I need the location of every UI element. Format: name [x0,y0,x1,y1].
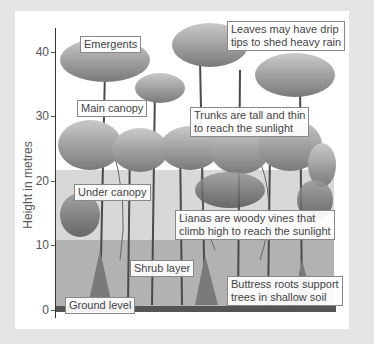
label-main-canopy: Main canopy [77,100,147,117]
y-tick-40 [51,52,55,53]
y-tick-0 [51,310,55,311]
fact-line: Lianas are woody vines that [179,212,331,225]
y-tick-label: 30 [27,110,49,122]
y-tick-30 [51,116,55,117]
y-axis-title: Height in metres [21,141,35,228]
y-tick-label: 0 [27,304,49,316]
y-tick-label: 40 [27,46,49,58]
label-under-canopy: Under canopy [74,184,151,201]
fact-drip-tips: Leaves may have drip tips to shed heavy … [227,21,345,51]
fact-line: climb high to reach the sunlight [179,225,331,238]
fact-line: Leaves may have drip [231,23,341,36]
y-axis-line [55,28,56,318]
fact-buttress-roots: Buttress roots support trees in shallow … [227,276,343,306]
fact-lianas: Lianas are woody vines that climb high t… [175,210,335,240]
fact-line: Trunks are tall and thin [194,109,305,122]
label-shrub-layer: Shrub layer [130,260,194,277]
fact-tall-trunks: Trunks are tall and thin to reach the su… [190,107,309,137]
label-emergents: Emergents [80,36,141,53]
y-tick-20 [51,181,55,182]
fact-line: Buttress roots support [231,278,339,291]
label-ground-level: Ground level [65,297,135,314]
y-tick-10 [51,245,55,246]
fact-line: tips to shed heavy rain [231,36,341,49]
fact-line: trees in shallow soil [231,291,339,304]
fact-line: to reach the sunlight [194,122,305,135]
y-tick-label: 10 [27,239,49,251]
